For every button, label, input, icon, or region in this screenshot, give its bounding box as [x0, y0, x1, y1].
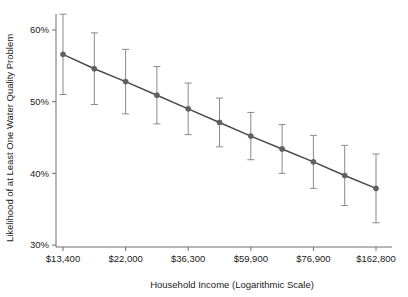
data-point-marker: [186, 106, 191, 111]
x-tick-label: $13,400: [46, 253, 80, 264]
x-tick-label: $36,300: [171, 253, 205, 264]
x-tick-label: $59,900: [234, 253, 268, 264]
x-tick-label: $162,800: [356, 253, 396, 264]
data-point-marker: [154, 93, 159, 98]
data-point-marker: [342, 173, 347, 178]
x-axis-label: Household Income (Logarithmic Scale): [150, 279, 314, 290]
y-tick-label: 60%: [30, 24, 50, 35]
chart-plot: 30%40%50%60% $13,400$22,000$36,300$59,90…: [0, 0, 408, 297]
data-point-marker: [217, 120, 222, 125]
data-point-marker: [92, 66, 97, 71]
data-point-marker: [311, 159, 316, 164]
y-tick-label: 50%: [30, 96, 50, 107]
y-axis-label: Likelihood of at Least One Water Quality…: [4, 34, 15, 242]
y-tick-label: 30%: [30, 239, 50, 250]
data-point-marker: [123, 79, 128, 84]
data-point-marker: [60, 52, 65, 57]
y-tick-label: 40%: [30, 168, 50, 179]
data-point-marker: [248, 133, 253, 138]
data-point-marker: [280, 146, 285, 151]
data-point-marker: [373, 186, 378, 191]
x-tick-label: $76,900: [296, 253, 330, 264]
chart-container: 30%40%50%60% $13,400$22,000$36,300$59,90…: [0, 0, 408, 297]
x-tick-label: $22,000: [108, 253, 142, 264]
